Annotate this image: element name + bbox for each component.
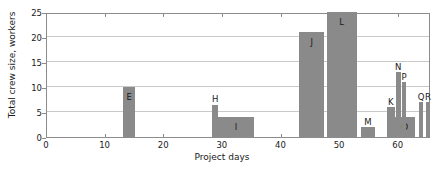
x-tick-mark-20	[163, 134, 164, 138]
bar-label-L: L	[332, 18, 352, 27]
y-tick-label-25: 25	[12, 9, 42, 18]
gridline-y-5	[47, 111, 429, 112]
x-tick-mark-top-50	[339, 13, 340, 17]
bar-L	[327, 12, 357, 137]
x-tick-label-10: 10	[90, 141, 120, 150]
y-tick-mark-15	[42, 63, 46, 64]
y-tick-mark-0	[42, 138, 46, 139]
bar-K	[387, 107, 395, 137]
x-tick-label-0: 0	[31, 141, 61, 150]
x-tick-mark-top-10	[105, 13, 106, 17]
bar-label-H: H	[205, 95, 225, 104]
x-tick-label-40: 40	[266, 141, 296, 150]
bar-label-J: J	[302, 38, 322, 47]
y-tick-label-5: 5	[12, 109, 42, 118]
bar-label-E: E	[119, 93, 139, 102]
x-tick-label-60: 60	[383, 141, 413, 150]
x-tick-mark-top-60	[398, 13, 399, 17]
x-tick-mark-top-20	[163, 13, 164, 17]
x-tick-mark-top-40	[281, 13, 282, 17]
x-tick-mark-0	[46, 134, 47, 138]
plot-area: EHIJLMKONPQR	[46, 13, 430, 138]
bar-chart: Total crew size, workers EHIJLMKONPQR 05…	[0, 0, 444, 172]
x-tick-label-20: 20	[148, 141, 178, 150]
y-tick-mark-10	[42, 88, 46, 89]
y-tick-label-15: 15	[12, 59, 42, 68]
y-tick-mark-5	[42, 113, 46, 114]
bar-label-P: P	[394, 73, 414, 82]
y-tick-label-20: 20	[12, 34, 42, 43]
gridline-y-15	[47, 61, 429, 62]
x-tick-mark-30	[222, 134, 223, 138]
x-tick-mark-40	[281, 134, 282, 138]
gridline-y-20	[47, 36, 429, 37]
bar-label-M: M	[358, 118, 378, 127]
gridline-y-10	[47, 86, 429, 87]
x-tick-label-50: 50	[324, 141, 354, 150]
x-tick-label-30: 30	[207, 141, 237, 150]
bar-P	[402, 82, 407, 137]
bar-label-I: I	[226, 123, 246, 132]
x-tick-mark-top-0	[46, 13, 47, 17]
bar-Q	[419, 102, 424, 137]
x-tick-mark-top-30	[222, 13, 223, 17]
x-axis-title: Project days	[0, 152, 444, 162]
bar-label-R: R	[418, 93, 438, 102]
bar-J	[299, 32, 324, 137]
bar-N	[396, 72, 401, 137]
x-tick-mark-50	[339, 134, 340, 138]
x-tick-mark-10	[105, 134, 106, 138]
x-tick-mark-60	[398, 134, 399, 138]
y-tick-label-10: 10	[12, 84, 42, 93]
bar-M	[361, 127, 376, 137]
y-tick-mark-20	[42, 38, 46, 39]
bar-R	[426, 102, 431, 137]
bar-label-N: N	[388, 63, 408, 72]
